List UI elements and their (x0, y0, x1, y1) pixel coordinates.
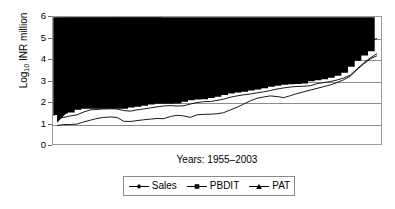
legend-item-pbdit[interactable]: PBDIT (186, 181, 239, 192)
data-series-canvas (53, 17, 382, 145)
legend-item-sales[interactable]: Sales (128, 181, 177, 192)
triangle-marker-icon (248, 181, 270, 192)
legend-label-pbdit: PBDIT (210, 181, 239, 191)
legend-label-sales: Sales (152, 181, 177, 191)
diamond-marker-icon (128, 181, 150, 192)
chart-legend: SalesPBDITPAT (123, 176, 295, 196)
x-axis-title: Years: 1955–2003 (52, 154, 382, 165)
plot-area (52, 16, 382, 145)
chart-figure: Log10 INR million 0123456 Years: 1955–20… (0, 0, 395, 209)
square-marker-icon (186, 181, 208, 192)
legend-label-pat: PAT (272, 181, 290, 191)
legend-item-pat[interactable]: PAT (248, 181, 290, 192)
y-tick-mark-0 (48, 145, 52, 146)
